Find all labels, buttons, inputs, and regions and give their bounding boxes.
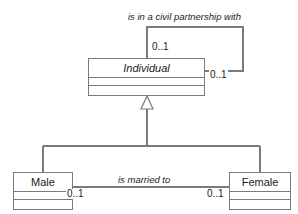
association-label-married-to: is married to (118, 175, 170, 185)
class-name-individual: Individual (89, 59, 204, 78)
class-attributes-male (14, 192, 72, 200)
class-name-female: Female (230, 173, 290, 192)
uml-class-diagram: Individual Male Female is in a civil par… (0, 0, 298, 214)
class-box-individual[interactable]: Individual (88, 58, 205, 96)
association-label-civil-partnership: is in a civil partnership with (128, 12, 241, 22)
class-name-male: Male (14, 173, 72, 192)
class-operations-individual (89, 86, 204, 95)
class-attributes-individual (89, 78, 204, 86)
class-operations-female (230, 200, 290, 209)
multiplicity-civil-partnership-target: 0..1 (209, 70, 228, 80)
generalization-arrowhead (141, 96, 153, 109)
class-box-male[interactable]: Male (13, 172, 73, 210)
multiplicity-marriage-female: 0..1 (206, 189, 225, 199)
class-attributes-female (230, 192, 290, 200)
multiplicity-civil-partnership-source: 0..1 (151, 42, 170, 52)
class-box-female[interactable]: Female (229, 172, 291, 210)
multiplicity-marriage-male: 0..1 (66, 189, 85, 199)
class-operations-male (14, 200, 72, 209)
